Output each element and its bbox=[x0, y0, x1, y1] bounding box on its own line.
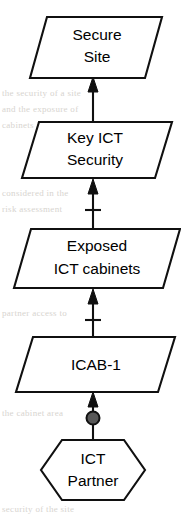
arrow-head-up-icon bbox=[88, 289, 98, 304]
svg-text:the security of a site: the security of a site bbox=[2, 88, 81, 98]
arrow-head-up-icon bbox=[88, 179, 98, 194]
svg-text:considered in the: considered in the bbox=[2, 188, 69, 198]
ict-partner-label-line1: ICT bbox=[81, 450, 107, 467]
flow-diagram: the security of a site and the exposure … bbox=[0, 0, 181, 520]
junction-dot-icon bbox=[87, 412, 100, 425]
connector-exposed-to-key-security bbox=[85, 179, 101, 229]
key-ict-security-label-line1: Key ICT bbox=[67, 129, 124, 146]
node-secure-site[interactable]: Secure Site bbox=[30, 17, 162, 78]
connector-partner-to-icab1 bbox=[87, 392, 100, 440]
key-ict-security-label-line2: Security bbox=[67, 151, 123, 168]
connector-icab1-to-exposed bbox=[85, 289, 101, 337]
svg-text:security of the site: security of the site bbox=[2, 504, 74, 514]
exposed-ict-cabinets-label-line2: ICT cabinets bbox=[54, 260, 141, 277]
ict-partner-label-line2: Partner bbox=[68, 472, 119, 489]
secure-site-label-line1: Secure bbox=[72, 26, 121, 43]
node-ict-partner[interactable]: ICT Partner bbox=[41, 440, 145, 500]
svg-text:risk assessment: risk assessment bbox=[2, 204, 62, 214]
arrow-head-up-icon bbox=[88, 77, 98, 92]
node-icab-1[interactable]: ICAB-1 bbox=[16, 337, 175, 392]
node-key-ict-security[interactable]: Key ICT Security bbox=[22, 122, 172, 178]
svg-text:the cabinet area: the cabinet area bbox=[2, 408, 63, 418]
arrow-head-up-icon bbox=[88, 392, 98, 407]
svg-text:partner access to: partner access to bbox=[2, 308, 67, 318]
icab-1-label: ICAB-1 bbox=[71, 356, 121, 373]
secure-site-label-line2: Site bbox=[84, 48, 111, 65]
svg-text:and the exposure of: and the exposure of bbox=[2, 104, 78, 114]
exposed-ict-cabinets-label-line1: Exposed bbox=[67, 237, 127, 254]
node-exposed-ict-cabinets[interactable]: Exposed ICT cabinets bbox=[14, 229, 180, 288]
flow-diagram-canvas: the security of a site and the exposure … bbox=[0, 0, 181, 520]
connector-key-security-to-secure-site bbox=[88, 77, 98, 122]
ict-partner-shape bbox=[41, 440, 145, 500]
